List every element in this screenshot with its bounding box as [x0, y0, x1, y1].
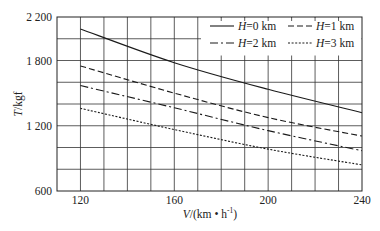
- chart: H=0 kmH=1 kmH=2 kmH=3 km 6001 2001 8002 …: [0, 0, 380, 231]
- y-tick-label: 2 200: [26, 11, 52, 23]
- y-tick-label: 600: [35, 185, 53, 197]
- x-axis-title: V/(km • h-1): [183, 206, 238, 221]
- y-axis-tick-labels: 6001 2001 8002 200: [26, 11, 52, 197]
- x-tick-label: 120: [72, 194, 90, 206]
- legend-label: H=3 km: [315, 37, 354, 49]
- y-tick-label: 1 800: [26, 55, 52, 67]
- y-axis-title: T/kgf: [12, 91, 25, 116]
- legend-label: H=2 km: [237, 37, 276, 49]
- legend: H=0 kmH=1 kmH=2 kmH=3 km: [201, 17, 362, 56]
- x-tick-label: 240: [353, 194, 371, 206]
- y-tick-label: 1 200: [26, 120, 52, 132]
- legend-label: H=1 km: [315, 20, 354, 32]
- x-tick-label: 160: [166, 194, 184, 206]
- x-axis-tick-labels: 120160200240: [72, 194, 371, 206]
- x-tick-label: 200: [260, 194, 278, 206]
- legend-label: H=0 km: [237, 20, 276, 32]
